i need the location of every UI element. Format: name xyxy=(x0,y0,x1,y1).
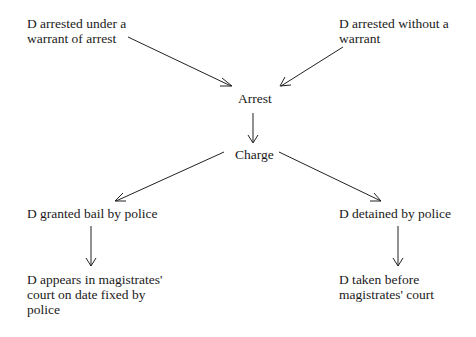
arrow-arrest-to-charge xyxy=(248,113,258,143)
node-taken-before-court: D taken before magistrates' court xyxy=(339,272,434,302)
node-arrested-under-warrant: D arrested under a warrant of arrest xyxy=(27,16,126,46)
arrow-bail-to-appears xyxy=(86,226,96,266)
arrow-detained-to-taken-before xyxy=(393,226,403,266)
node-arrest: Arrest xyxy=(238,91,272,106)
arrow-charge-to-bail xyxy=(115,152,224,201)
arrow-charge-to-detained xyxy=(279,152,381,201)
arrow-no-warrant-to-arrest xyxy=(280,47,343,86)
node-charge: Charge xyxy=(235,147,274,162)
node-detained: D detained by police xyxy=(339,206,451,221)
node-arrested-without-warrant: D arrested without a warrant xyxy=(339,16,449,46)
node-granted-bail: D granted bail by police xyxy=(27,206,157,221)
arrow-warrant-to-arrest xyxy=(128,37,232,86)
node-appears-in-court: D appears in magistrates' court on date … xyxy=(27,272,163,317)
